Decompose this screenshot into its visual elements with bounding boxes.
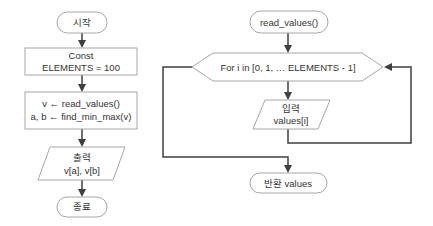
input-label-line1: 입력: [282, 103, 300, 114]
start-terminator: 시작: [57, 12, 107, 33]
const-process-box: Const ELEMENTS = 100: [25, 48, 137, 75]
loop-hexagon: For i in [0, 1, … ELEMENTS - 1]: [192, 53, 383, 81]
output-label-line2: v[a], v[b]: [64, 165, 100, 176]
read-values-label: read_values(): [260, 17, 318, 28]
process-label-line1: v ← read_values(): [42, 98, 120, 109]
process-label-line2: a, b ← find_min_max(v): [31, 111, 132, 122]
return-label: 반환 values: [264, 178, 312, 189]
loop-label: For i in [0, 1, … ELEMENTS - 1]: [220, 62, 355, 73]
return-terminator: 반환 values: [250, 173, 327, 193]
end-label: 종료: [73, 201, 91, 212]
assignment-process-box: v ← read_values() a, b ← find_min_max(v): [25, 92, 137, 129]
read-values-terminator: read_values(): [250, 11, 328, 33]
start-label: 시작: [73, 17, 91, 28]
main-flow: 시작 Const ELEMENTS = 100 v ← read_values(…: [25, 12, 137, 217]
output-io-shape: 출력 v[a], v[b]: [38, 147, 125, 180]
input-io-shape: 입력 values[i]: [253, 100, 330, 129]
read-values-flow: read_values() For i in [0, 1, … ELEMENTS…: [163, 11, 411, 193]
end-terminator: 종료: [57, 197, 107, 217]
const-label-line1: Const: [69, 50, 94, 61]
input-label-line2: values[i]: [274, 115, 309, 126]
const-label-line2: ELEMENTS = 100: [42, 62, 120, 73]
flowchart-canvas: 시작 Const ELEMENTS = 100 v ← read_values(…: [0, 0, 433, 226]
output-label-line1: 출력: [73, 152, 91, 163]
